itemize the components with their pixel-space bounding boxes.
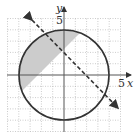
shaded-region	[0, 0, 139, 133]
x-axis-label: x	[127, 77, 134, 90]
x-tick-label: 5	[118, 77, 125, 90]
graph: y 5 5 x	[0, 0, 139, 137]
y-tick-label: 5	[56, 14, 63, 27]
